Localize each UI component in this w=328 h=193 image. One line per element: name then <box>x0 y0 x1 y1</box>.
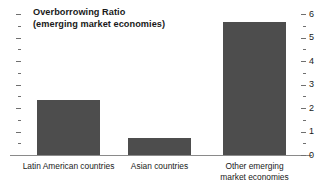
y-tick-minor-left-1.5 <box>18 120 21 121</box>
bar-1 <box>128 138 191 155</box>
y-axis-label-3: 3 <box>309 80 314 89</box>
y-axis-label-0: 0 <box>309 151 314 160</box>
y-tick-minor-right-2.5 <box>303 96 306 97</box>
y-tick-major-left-4 <box>16 61 21 62</box>
y-tick-major-left-5 <box>16 38 21 39</box>
y-tick-major-right-4 <box>301 61 306 62</box>
y-tick-major-left-6 <box>16 14 21 15</box>
y-tick-major-right-5 <box>301 38 306 39</box>
y-axis-label-2: 2 <box>309 104 314 113</box>
y-axis-label-1: 1 <box>309 127 314 136</box>
y-axis-label-6: 6 <box>309 10 314 19</box>
y-tick-major-left-1 <box>16 132 21 133</box>
y-tick-major-right-3 <box>301 85 306 86</box>
bar-2 <box>223 22 286 155</box>
y-tick-minor-left-4.5 <box>18 49 21 50</box>
category-label-2: Other emerging market economies <box>195 161 315 182</box>
chart-title-block: Overborrowing Ratio (emerging market eco… <box>33 7 165 30</box>
y-tick-major-right-0 <box>301 155 306 156</box>
y-tick-minor-right-4.5 <box>303 49 306 50</box>
y-tick-major-left-2 <box>16 108 21 109</box>
y-tick-minor-left-5.5 <box>18 26 21 27</box>
chart-title: Overborrowing Ratio <box>33 7 165 19</box>
y-axis-label-5: 5 <box>309 33 314 42</box>
y-tick-minor-left-0.5 <box>18 143 21 144</box>
y-tick-minor-right-5.5 <box>303 26 306 27</box>
y-axis-label-4: 4 <box>309 57 314 66</box>
y-tick-major-right-6 <box>301 14 306 15</box>
y-tick-minor-right-0.5 <box>303 143 306 144</box>
y-tick-major-right-2 <box>301 108 306 109</box>
y-tick-minor-left-2.5 <box>18 96 21 97</box>
chart-subtitle: (emerging market economies) <box>33 19 165 31</box>
y-tick-major-left-3 <box>16 85 21 86</box>
y-tick-major-right-1 <box>301 132 306 133</box>
y-tick-minor-right-3.5 <box>303 73 306 74</box>
y-tick-minor-right-1.5 <box>303 120 306 121</box>
x-axis-baseline <box>10 155 312 156</box>
bar-0 <box>37 100 100 155</box>
overborrowing-ratio-bar-chart: Overborrowing Ratio (emerging market eco… <box>0 0 328 193</box>
y-tick-minor-left-3.5 <box>18 73 21 74</box>
